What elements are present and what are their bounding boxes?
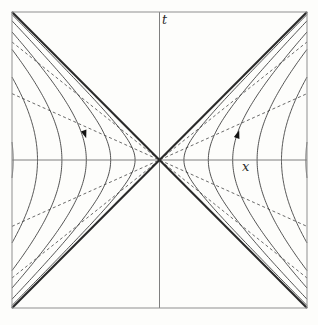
diagram-canvas bbox=[0, 0, 318, 325]
t-axis-label: t bbox=[162, 14, 167, 27]
spacetime-diagram: t x bbox=[0, 0, 318, 325]
x-axis-label: x bbox=[242, 160, 249, 173]
